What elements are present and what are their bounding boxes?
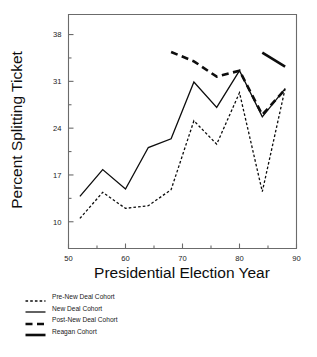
- tick-labels: 10172431385060708090: [53, 30, 301, 262]
- tick-marks: [69, 35, 297, 249]
- x-tick-label: 80: [235, 254, 243, 263]
- legend-item: Post-New Deal Cohort: [25, 314, 225, 326]
- legend-swatch-thick-dashed-icon: [25, 315, 46, 325]
- x-tick-label: 60: [121, 254, 129, 263]
- y-tick-label: 24: [53, 124, 61, 133]
- y-axis-title: Percent Splitting Ticket: [8, 50, 25, 208]
- x-tick-label: 90: [292, 254, 300, 263]
- series-line-new-deal-cohort: [80, 71, 285, 197]
- axes-frame: [69, 15, 297, 249]
- legend-item: Reagan Cohort: [25, 326, 225, 338]
- legend-swatch-fine-dashed-icon: [25, 292, 46, 302]
- legend-item-label: Post-New Deal Cohort: [52, 316, 118, 323]
- x-tick-label: 70: [178, 254, 186, 263]
- series-group: [80, 52, 285, 218]
- chart-legend: Pre-New Deal CohortNew Deal CohortPost-N…: [25, 291, 225, 337]
- legend-item: New Deal Cohort: [25, 303, 225, 315]
- plot-frame: [69, 15, 297, 249]
- y-tick-label: 31: [53, 77, 61, 86]
- legend-swatch-thick-solid-icon: [25, 326, 46, 336]
- figure-container: 10172431385060708090 Presidential Electi…: [0, 0, 317, 357]
- y-tick-label: 38: [53, 30, 61, 39]
- legend-item: Pre-New Deal Cohort: [25, 291, 225, 303]
- series-line-pre-new-deal-cohort: [80, 89, 285, 219]
- series-line-post-new-deal-cohort: [171, 52, 285, 115]
- x-axis-title: Presidential Election Year: [94, 264, 270, 281]
- legend-item-label: New Deal Cohort: [52, 305, 102, 312]
- legend-item-label: Pre-New Deal Cohort: [52, 293, 115, 300]
- series-line-reagan-cohort: [262, 53, 285, 67]
- legend-swatch-thin-solid-icon: [25, 303, 46, 313]
- legend-item-label: Reagan Cohort: [52, 328, 97, 335]
- x-tick-label: 50: [64, 254, 72, 263]
- y-tick-label: 10: [53, 218, 61, 227]
- y-tick-label: 17: [53, 171, 61, 180]
